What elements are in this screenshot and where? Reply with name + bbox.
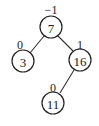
balance-factor-3: 0 xyxy=(17,38,23,52)
tree-node-7: 7 xyxy=(40,16,62,38)
avl-tree-diagram: 7 −1 3 0 16 1 11 0 xyxy=(0,0,99,126)
balance-factor-11: 0 xyxy=(50,81,56,95)
edge-7-16 xyxy=(58,36,73,51)
tree-node-16: 16 xyxy=(69,49,91,71)
node-key: 7 xyxy=(48,21,55,36)
balance-factor-16: 1 xyxy=(77,38,83,52)
node-key: 3 xyxy=(20,55,27,70)
node-key: 11 xyxy=(47,97,60,112)
tree-node-11: 11 xyxy=(42,92,64,114)
edge-7-3 xyxy=(30,36,44,53)
node-key: 16 xyxy=(74,54,88,69)
balance-factor-7: −1 xyxy=(45,3,58,17)
edge-16-11 xyxy=(60,70,74,93)
tree-node-3: 3 xyxy=(12,50,34,72)
